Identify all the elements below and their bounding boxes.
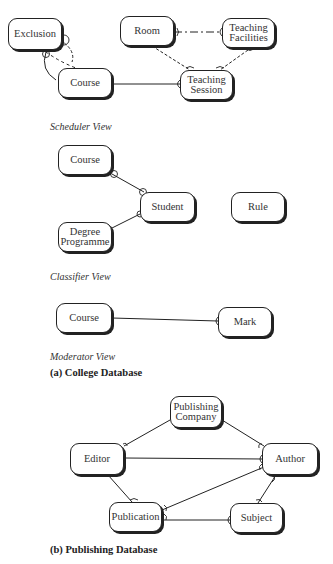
- entity-label: Author: [275, 454, 305, 465]
- entity-label: Rule: [248, 202, 268, 213]
- link-room-teaching-session: [152, 46, 190, 70]
- link-editor-publication: [108, 475, 132, 502]
- entity-teaching-session[interactable]: Teaching Session: [180, 70, 233, 100]
- link-author-subject: [258, 475, 276, 503]
- link-course-mark: [112, 318, 218, 321]
- link-exclusion-loop-b: [44, 52, 56, 80]
- entity-teaching-facilities[interactable]: Teaching Facilities: [222, 18, 275, 48]
- entity-subject[interactable]: Subject: [230, 503, 283, 533]
- publishing-database-caption: (b) Publishing Database: [50, 544, 157, 555]
- link-degree-student: [112, 214, 140, 228]
- entity-label: Teaching Facilities: [229, 23, 268, 44]
- link-exclusion-course: [46, 52, 76, 68]
- link-editor-author: [124, 458, 262, 459]
- entity-publication[interactable]: Publication: [109, 502, 162, 532]
- link-company-author: [222, 420, 264, 446]
- scheduler-view-label: Scheduler View: [50, 121, 112, 132]
- entity-label: Subject: [241, 513, 273, 524]
- entity-label: Exclusion: [14, 29, 56, 40]
- college-database-caption: (a) College Database: [50, 367, 142, 378]
- entity-label: Course: [70, 78, 100, 89]
- entity-course-moderator[interactable]: Course: [56, 303, 112, 333]
- entity-room[interactable]: Room: [120, 16, 174, 46]
- link-company-editor: [124, 420, 170, 446]
- link-exclusion-course-loop: [60, 40, 73, 62]
- entity-label: Course: [70, 155, 100, 166]
- entity-mark[interactable]: Mark: [218, 307, 272, 337]
- entity-rule[interactable]: Rule: [231, 192, 285, 222]
- classifier-view-label: Classifier View: [50, 271, 111, 282]
- entity-label: Publishing Company: [174, 402, 219, 423]
- entity-label: Editor: [84, 454, 110, 465]
- entity-label: Course: [69, 313, 99, 324]
- entity-label: Degree Programme: [61, 227, 110, 248]
- entity-author[interactable]: Author: [262, 443, 318, 475]
- entity-editor[interactable]: Editor: [70, 443, 124, 475]
- entity-course-classifier[interactable]: Course: [58, 145, 112, 175]
- link-facilities-teaching-session: [220, 50, 248, 70]
- entity-student[interactable]: Student: [140, 192, 195, 222]
- moderator-view-label: Moderator View: [50, 351, 115, 362]
- entity-exclusion[interactable]: Exclusion: [8, 18, 62, 50]
- entity-label: Publication: [112, 512, 160, 523]
- entity-course-scheduler[interactable]: Course: [58, 68, 112, 98]
- relationship-lines: [0, 0, 333, 564]
- entity-degree-programme[interactable]: Degree Programme: [58, 222, 112, 252]
- entity-label: Student: [151, 202, 183, 213]
- entity-label: Room: [134, 26, 160, 37]
- entity-label: Mark: [234, 317, 257, 328]
- entity-publishing-company[interactable]: Publishing Company: [170, 396, 222, 428]
- entity-label: Teaching Session: [187, 75, 225, 96]
